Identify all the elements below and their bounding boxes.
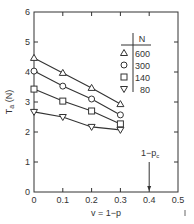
x-tick-label: 0.5 xyxy=(172,195,185,205)
y-tick-label: 6 xyxy=(25,7,30,17)
legend-label: 600 xyxy=(135,49,150,59)
x-tick-label: 0.1 xyxy=(57,195,70,205)
series-line-140 xyxy=(34,89,120,124)
plot-frame xyxy=(34,12,178,192)
legend-label: 140 xyxy=(135,73,150,83)
triangle-up-marker xyxy=(88,84,95,90)
circle-marker xyxy=(60,83,66,89)
circle-icon xyxy=(121,62,127,68)
x-tick-label: 0 xyxy=(31,195,36,205)
x-axis-label: v = 1−p xyxy=(91,208,121,218)
legend-label: 300 xyxy=(135,61,150,71)
x-tick-label: 0.3 xyxy=(114,195,127,205)
annotation-label: 1−pc xyxy=(141,148,159,159)
arrow-down-icon xyxy=(147,186,151,191)
circle-marker xyxy=(89,96,95,102)
triangle-down-icon xyxy=(121,87,128,93)
circle-marker xyxy=(31,68,37,74)
square-marker xyxy=(31,86,37,92)
series-line-300 xyxy=(34,71,120,115)
triangle-down-marker xyxy=(117,127,124,133)
circle-marker xyxy=(117,112,123,118)
y-tick-label: 4 xyxy=(25,67,30,77)
triangle-up-marker xyxy=(117,101,124,107)
x-tick-label: 0.2 xyxy=(85,195,98,205)
square-marker xyxy=(89,108,95,114)
triangle-up-icon xyxy=(121,50,128,56)
y-tick-label: 2 xyxy=(25,127,30,137)
chart: 00.10.20.30.40.50123456v = 1−pTa (N)N600… xyxy=(0,0,194,224)
legend-label: 80 xyxy=(140,85,150,95)
y-tick-label: 0 xyxy=(25,187,30,197)
y-tick-label: 3 xyxy=(25,97,30,107)
square-marker xyxy=(60,98,66,104)
triangle-up-marker xyxy=(31,54,38,60)
square-icon xyxy=(121,74,127,80)
square-marker xyxy=(117,121,123,127)
series-line-600 xyxy=(34,58,120,104)
y-axis-label: Ta (N) xyxy=(4,90,15,114)
triangle-up-marker xyxy=(59,69,66,75)
y-tick-label: 5 xyxy=(25,37,30,47)
y-tick-label: 1 xyxy=(25,157,30,167)
legend-title: N xyxy=(139,34,146,44)
x-tick-label: 0.4 xyxy=(143,195,156,205)
series-line-80 xyxy=(34,112,120,130)
